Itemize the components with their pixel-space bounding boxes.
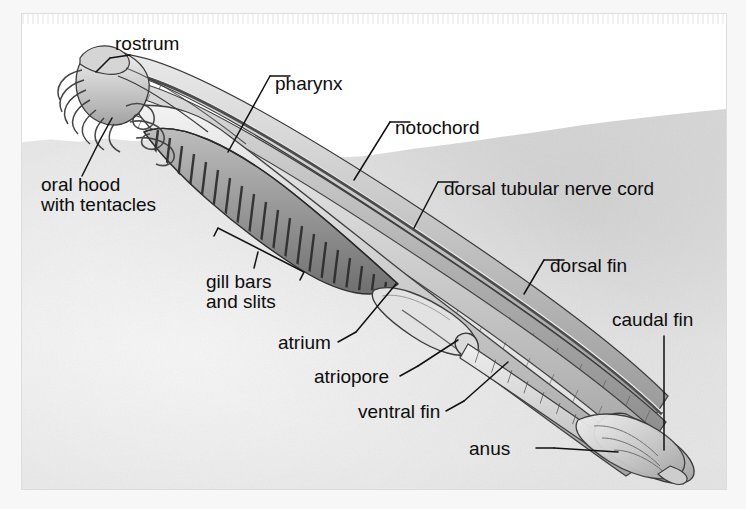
label-rostrum: rostrum [115, 34, 179, 54]
label-oral-hood-line1: oral hood [41, 175, 156, 195]
label-caudal-fin: caudal fin [612, 310, 693, 330]
caudal-fin-shape [576, 413, 694, 484]
label-oral-hood-with-tentacles: oral hood with tentacles [41, 175, 156, 215]
leader-atrium [338, 332, 356, 342]
label-gill-bars-line1: gill bars [206, 272, 276, 292]
leader-atriopore [400, 366, 418, 376]
label-notochord: notochord [395, 118, 480, 138]
label-anus: anus [469, 439, 510, 459]
label-ventral-fin: ventral fin [358, 402, 440, 422]
label-atriopore: atriopore [314, 367, 389, 387]
label-gill-bars-and-slits: gill bars and slits [206, 272, 276, 312]
illustration-plate: rostrum pharynx notochord oral hood with… [22, 14, 726, 489]
figure-root: rostrum pharynx notochord oral hood with… [0, 0, 746, 509]
label-dorsal-fin: dorsal fin [550, 256, 627, 276]
label-oral-hood-line2: with tentacles [41, 195, 156, 215]
leader-ventral-fin [446, 401, 464, 411]
label-gill-bars-line2: and slits [206, 292, 276, 312]
label-atrium: atrium [278, 333, 331, 353]
label-pharynx: pharynx [275, 74, 343, 94]
label-dorsal-tubular-nerve-cord: dorsal tubular nerve cord [444, 179, 654, 199]
